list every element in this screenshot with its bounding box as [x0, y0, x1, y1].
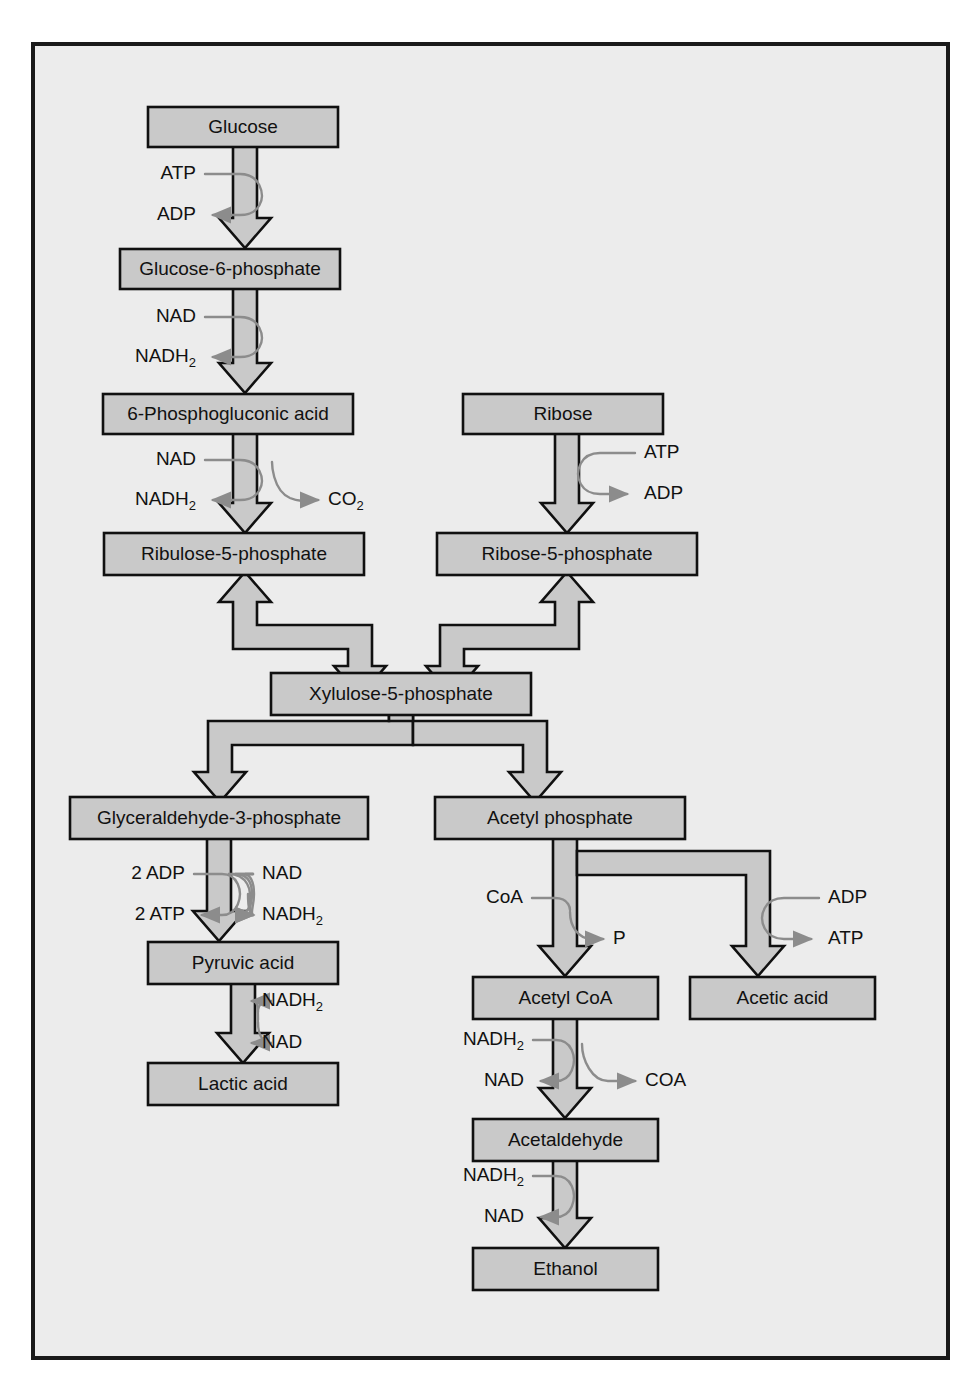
compound-label-phosphogluconic: 6-Phosphogluconic acid	[127, 403, 329, 424]
compound-label-ribulose5p: Ribulose-5-phosphate	[141, 543, 327, 564]
compound-label-acetylcoa: Acetyl CoA	[519, 987, 613, 1008]
cofactor-label-adp2-in-g3p: 2 ADP	[131, 862, 185, 883]
cofactor-label-adp-in-acetic: ADP	[828, 886, 867, 907]
cofactor-label-nad-in-pg: NAD	[156, 448, 196, 469]
cofactor-label-atp-in-ribose: ATP	[644, 441, 680, 462]
compound-label-lactic: Lactic acid	[198, 1073, 288, 1094]
cofactor-label-atp-in-glucose: ATP	[160, 162, 196, 183]
cofactor-label-nad-in-g3p: NAD	[262, 862, 302, 883]
compound-label-glucose: Glucose	[208, 116, 278, 137]
cofactor-label-nad-in-g6p: NAD	[156, 305, 196, 326]
compound-label-aceticacid: Acetic acid	[737, 987, 829, 1008]
compound-label-pyruvic: Pyruvic acid	[192, 952, 294, 973]
compound-label-xylulose5p: Xylulose-5-phosphate	[309, 683, 493, 704]
compound-label-acetaldehyde: Acetaldehyde	[508, 1129, 623, 1150]
cofactor-label-atp-out-acetic: ATP	[828, 927, 864, 948]
compound-label-ribose: Ribose	[533, 403, 592, 424]
compound-label-glucose6p: Glucose-6-phosphate	[139, 258, 321, 279]
compound-label-ethanol: Ethanol	[533, 1258, 597, 1279]
cofactor-label-atp2-out-g3p: 2 ATP	[135, 903, 185, 924]
compound-label-acetylphosphate: Acetyl phosphate	[487, 807, 633, 828]
cofactor-label-nad-out-pyruvic: NAD	[262, 1031, 302, 1052]
pathway-diagram: GlucoseGlucose-6-phosphate6-Phosphogluco…	[0, 0, 978, 1392]
compound-label-glyceraldehyde3p: Glyceraldehyde-3-phosphate	[97, 807, 341, 828]
cofactor-label-nad-out-acoa: NAD	[484, 1069, 524, 1090]
cofactor-label-adp-out-ribose: ADP	[644, 482, 683, 503]
cofactor-label-adp-out-glucose: ADP	[157, 203, 196, 224]
cofactor-label-coa-in-acp: CoA	[486, 886, 523, 907]
cofactor-label-p-out-acp: P	[613, 927, 626, 948]
cofactor-label-coa-out-acoa: COA	[645, 1069, 687, 1090]
cofactor-label-nad-out-acetal: NAD	[484, 1205, 524, 1226]
pathway-figure: GlucoseGlucose-6-phosphate6-Phosphogluco…	[0, 0, 978, 1392]
compound-label-ribose5p: Ribose-5-phosphate	[481, 543, 652, 564]
